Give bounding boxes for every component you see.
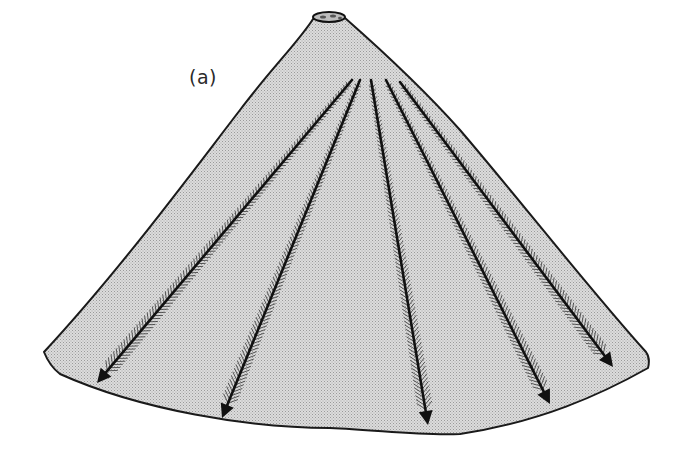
volcano-cone xyxy=(44,18,649,434)
volcano-diagram xyxy=(0,0,682,453)
panel-label: (a) xyxy=(189,66,217,88)
crater xyxy=(313,12,345,22)
